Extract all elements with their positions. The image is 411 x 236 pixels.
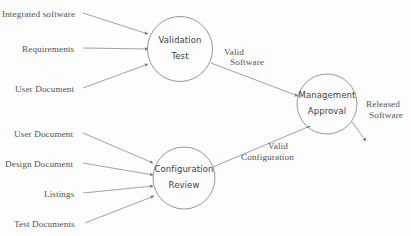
process-circle-management-approval[interactable] <box>297 74 357 134</box>
flow-label-valid-software-line2: Software <box>230 57 264 67</box>
process-circle-group <box>148 17 358 210</box>
input-label-integrated-software: Integrated software <box>2 9 75 19</box>
input-arrow-listings[interactable] <box>83 186 153 193</box>
flow-arrow-valid-software[interactable] <box>211 63 298 96</box>
input-edge-group <box>83 13 154 223</box>
input-label-requirements: Requirements <box>22 44 74 54</box>
input-label-user-document-bottom: User Document <box>14 129 73 139</box>
diagram-canvas <box>0 0 411 236</box>
process-circle-configuration-review[interactable] <box>153 147 215 209</box>
flow-label-valid-software-line1: Valid <box>224 47 244 57</box>
process-circle-validation-test[interactable] <box>148 17 213 82</box>
input-label-test-documents: Test Documents <box>14 219 75 229</box>
flow-label-released-software-line2: Software <box>369 110 403 120</box>
flow-label-released-software-line1: Released <box>366 99 400 109</box>
flow-label-valid-configuration-line2: Configuration <box>241 152 294 162</box>
input-label-listings: Listings <box>44 189 74 199</box>
input-arrow-design-document[interactable] <box>83 163 153 175</box>
input-arrow-integrated-software[interactable] <box>83 13 148 34</box>
input-arrow-requirements[interactable] <box>83 48 148 49</box>
input-arrow-test-documents[interactable] <box>85 196 154 223</box>
input-label-user-document-top: User Document <box>15 84 74 94</box>
input-arrow-user-document-bottom[interactable] <box>83 133 153 163</box>
data-flow-diagram: ValidationTestManagementApprovalConfigur… <box>0 0 411 236</box>
flow-arrow-released-software[interactable] <box>352 122 366 141</box>
input-arrow-user-document-top[interactable] <box>83 64 148 88</box>
flow-label-valid-configuration-line1: Valid <box>268 141 288 151</box>
input-label-design-document: Design Document <box>5 159 73 169</box>
